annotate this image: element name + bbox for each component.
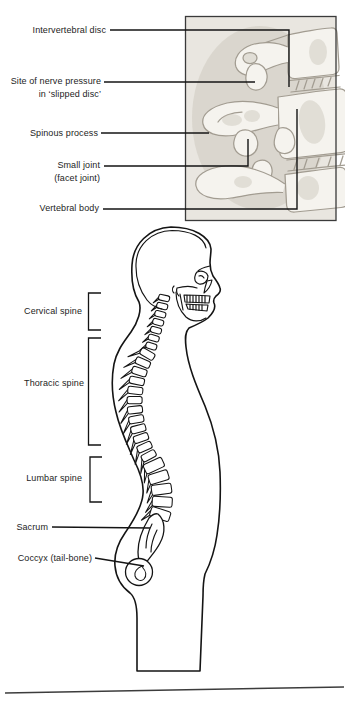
span-brackets: [89, 293, 103, 502]
label-cervical-spine: Cervical spine: [24, 305, 82, 318]
figure: [112, 227, 220, 671]
label-lumbar-spine: Lumbar spine: [26, 472, 82, 485]
bracket-cervical: [89, 293, 102, 330]
label-coccyx: Coccyx (tail-bone): [18, 552, 92, 565]
spine-diagram-svg: [0, 0, 353, 702]
facet-knob-middle: [274, 128, 295, 154]
spine-diagram-page: Intervertebral disc Site of nerve pressu…: [0, 0, 353, 702]
label-spinous-process: Spinous process: [30, 127, 98, 140]
bracket-lumbar: [90, 457, 102, 502]
facet-knob-top: [246, 64, 267, 90]
bottom-divider: [5, 687, 344, 693]
label-nerve-pressure: Site of nerve pressure in ‘slipped disc’: [11, 75, 101, 101]
bracket-thoracic: [89, 338, 102, 445]
label-intervertebral-disc: Intervertebral disc: [33, 24, 106, 37]
body-outline: [112, 227, 220, 671]
small-joint-knob: [234, 130, 258, 156]
label-thoracic-spine: Thoracic spine: [24, 377, 84, 390]
leader-sacrum: [52, 527, 150, 528]
label-vertebral-body: Vertebral body: [40, 202, 99, 215]
label-small-joint: Small joint (facet joint): [54, 159, 100, 185]
inset-sketch: [186, 17, 351, 221]
label-sacrum: Sacrum: [16, 521, 48, 534]
